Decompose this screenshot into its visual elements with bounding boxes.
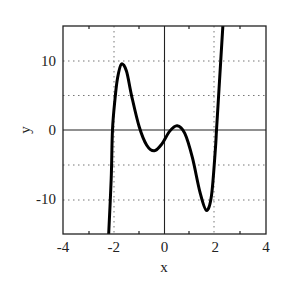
zero-lines (63, 26, 266, 234)
chart: -4-2024 100-10 x y (0, 0, 288, 285)
y-tick-label: 0 (49, 122, 57, 138)
y-tick-label: 10 (41, 53, 56, 69)
x-tick-label: 2 (212, 239, 220, 255)
x-tick-label: 4 (262, 239, 270, 255)
y-tick-labels: 100-10 (36, 53, 56, 208)
y-tick-label: -10 (36, 191, 56, 207)
y-axis-label: y (17, 126, 33, 134)
x-tick-label: 0 (161, 239, 169, 255)
x-tick-label: -2 (108, 239, 121, 255)
x-tick-label: -4 (57, 239, 70, 255)
x-axis-label: x (160, 259, 168, 275)
x-tick-labels: -4-2024 (57, 239, 271, 255)
